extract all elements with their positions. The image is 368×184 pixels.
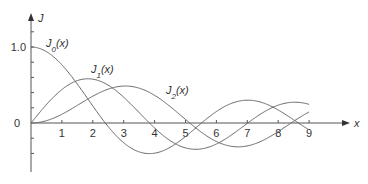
x-tick-label-5: 5: [182, 127, 188, 139]
series-label-j1: J1(x): [90, 63, 114, 80]
x-axis-label: x: [353, 117, 360, 129]
y-tick-label-0: 0: [14, 117, 20, 129]
x-tick-label-3: 3: [121, 127, 127, 139]
x-tick-label-1: 1: [59, 127, 65, 139]
x-tick-label-6: 6: [213, 127, 219, 139]
y-axis-label: J: [37, 12, 44, 24]
x-axis-arrow: [342, 120, 350, 126]
y-axis-arrow: [28, 13, 34, 21]
y-tick-label-1: 1.0: [11, 41, 26, 53]
series-label-j0: J0(x): [45, 37, 69, 54]
series-label-j2: J2(x): [165, 84, 189, 101]
x-tick-label-2: 2: [90, 127, 96, 139]
bessel-chart: x J 1.0 0 123456789 J0(x) J1(x) J2(x): [0, 0, 368, 184]
x-tick-label-7: 7: [244, 127, 250, 139]
x-tick-label-4: 4: [152, 127, 158, 139]
